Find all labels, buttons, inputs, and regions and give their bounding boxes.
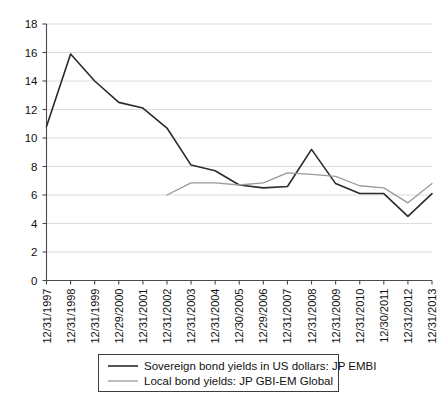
x-tick-label: 12/31/2013 [426, 289, 438, 344]
legend-label-sovereign-embi: Sovereign bond yields in US dollars: JP … [144, 360, 376, 372]
y-tick-label: 0 [31, 275, 37, 287]
chart-legend: Sovereign bond yields in US dollars: JP … [99, 355, 377, 392]
y-tick-label: 6 [31, 189, 37, 201]
x-tick-label: 12/31/1997 [41, 289, 53, 344]
x-tick-label: 12/31/2010 [354, 289, 366, 344]
x-tick-label: 12/31/2007 [281, 289, 293, 344]
y-tick-label: 4 [31, 218, 38, 230]
x-tick-label: 12/30/2011 [378, 289, 390, 343]
y-tick-label: 14 [25, 75, 38, 87]
y-tick-label: 18 [25, 18, 38, 30]
x-tick-label: 12/29/2000 [113, 289, 125, 344]
y-tick-label: 2 [31, 246, 37, 258]
x-tick-label: 12/30/2005 [233, 289, 245, 344]
x-tick-label: 12/29/2006 [257, 289, 269, 344]
x-tick-label: 12/31/2009 [330, 289, 342, 344]
x-tick-label: 12/31/2008 [306, 289, 318, 344]
chart-canvas: 024681012141618 12/31/199712/31/199812/3… [0, 0, 440, 396]
x-tick-label: 12/31/2003 [185, 289, 197, 344]
line-chart: 024681012141618 12/31/199712/31/199812/3… [0, 0, 440, 396]
series-line-local-gbi-em [167, 173, 432, 203]
gridlines [47, 24, 433, 252]
x-tick-label: 12/31/2004 [209, 289, 221, 344]
y-axis-ticks: 024681012141618 [25, 18, 47, 287]
y-tick-label: 16 [25, 47, 38, 59]
y-tick-label: 10 [25, 132, 38, 144]
x-tick-label: 12/31/2012 [402, 289, 414, 344]
y-tick-label: 12 [25, 104, 38, 116]
x-axis-labels: 12/31/199712/31/199812/31/199912/29/2000… [41, 289, 439, 344]
y-tick-label: 8 [31, 161, 37, 173]
x-tick-label: 12/31/2002 [161, 289, 173, 344]
series-line-sovereign-embi [47, 54, 433, 216]
x-axis-ticks [47, 281, 433, 285]
x-tick-label: 12/31/1999 [89, 289, 101, 344]
legend-label-local-gbi-em: Local bond yields: JP GBI-EM Global [144, 375, 333, 387]
x-tick-label: 12/31/2001 [137, 289, 149, 344]
x-tick-label: 12/31/1998 [65, 289, 77, 344]
